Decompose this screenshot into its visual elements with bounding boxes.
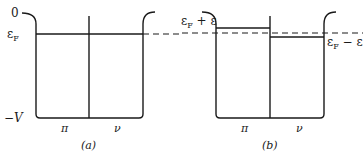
potential-well-diagram: 0 εF −V π ν (a) εF + ε εF − ε π ν (b) xyxy=(0,0,363,153)
panel-a: 0 εF −V π ν (a) xyxy=(4,6,182,152)
panel-b: εF + ε εF − ε π ν (b) xyxy=(181,12,363,152)
zero-label: 0 xyxy=(11,6,19,20)
upper-level-label: εF + ε xyxy=(181,14,217,30)
caption-b: (b) xyxy=(262,139,278,152)
nu-label-a: ν xyxy=(114,122,121,135)
nu-label-b: ν xyxy=(296,122,303,135)
caption-a: (a) xyxy=(81,139,96,152)
pi-label-b: π xyxy=(240,122,249,135)
lower-level-label: εF − ε xyxy=(327,35,363,51)
pi-label-a: π xyxy=(60,122,69,135)
minus-v-label: −V xyxy=(4,111,24,125)
fermi-label-a: εF xyxy=(7,27,19,43)
